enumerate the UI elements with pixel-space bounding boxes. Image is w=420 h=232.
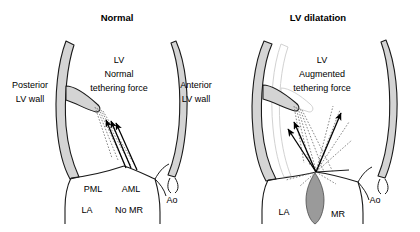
figure-canvas: Normal (0, 0, 420, 232)
label-force-line1-normal: Normal (104, 69, 133, 79)
label-lv-dilatation: LV (317, 55, 327, 65)
label-aml: AML (122, 184, 141, 194)
label-force-line2-normal: tethering force (90, 83, 148, 93)
label-posterior-line1: Posterior (12, 80, 48, 90)
panel-normal-title: Normal (101, 12, 134, 23)
label-anterior-line2: LV wall (182, 94, 210, 104)
label-la-dilatation: LA (278, 207, 289, 217)
label-ao-normal: Ao (166, 195, 177, 205)
label-force-line1-dil: Augmented (299, 69, 345, 79)
label-lv-normal: LV (114, 55, 124, 65)
panel-dilatation-title: LV dilatation (290, 12, 346, 23)
label-la-normal: LA (81, 205, 92, 215)
label-force-line2-dil: tethering force (293, 83, 351, 93)
label-ao-dilatation: Ao (369, 195, 380, 205)
label-posterior-line2: LV wall (16, 94, 44, 104)
label-pml: PML (84, 184, 103, 194)
label-no-mr: No MR (115, 205, 144, 215)
diagram-svg: Normal (0, 0, 420, 232)
label-mr: MR (331, 209, 345, 219)
label-anterior-line1: Anterior (180, 80, 212, 90)
